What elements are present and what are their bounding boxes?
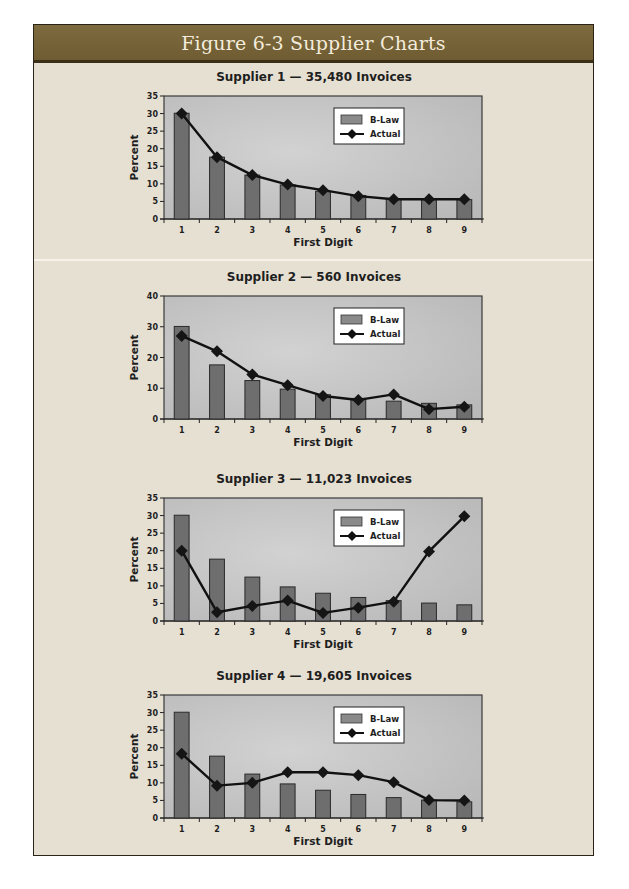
legend-bar-swatch xyxy=(341,714,362,723)
x-tick-label: 7 xyxy=(391,426,397,435)
x-tick-label: 7 xyxy=(391,628,397,637)
y-tick-label: 20 xyxy=(147,354,159,363)
bar xyxy=(245,381,260,419)
x-tick-label: 3 xyxy=(250,628,256,637)
chart-title: Supplier 1 — 35,480 Invoices xyxy=(216,70,412,84)
x-tick-label: 6 xyxy=(356,226,362,235)
x-tick-label: 8 xyxy=(426,426,432,435)
x-tick-label: 5 xyxy=(320,825,326,834)
x-tick-label: 1 xyxy=(179,426,185,435)
legend-bar-swatch xyxy=(341,517,362,526)
y-tick-label: 15 xyxy=(147,761,159,770)
y-axis-label: Percent xyxy=(128,335,140,381)
y-axis-label: Percent xyxy=(128,135,140,181)
x-tick-label: 4 xyxy=(285,825,291,834)
figure-frame: Figure 6-3 Supplier Charts Supplier 1 — … xyxy=(33,24,594,856)
x-tick-label: 3 xyxy=(250,426,256,435)
chart-title: Supplier 2 — 560 Invoices xyxy=(227,270,401,284)
y-tick-label: 0 xyxy=(152,415,158,424)
y-tick-label: 10 xyxy=(147,779,159,788)
bar xyxy=(280,784,295,818)
legend-b-law-label: B-Law xyxy=(370,517,399,527)
y-axis: 010203040 xyxy=(147,292,164,424)
x-tick-label: 2 xyxy=(214,825,220,834)
x-tick-label: 4 xyxy=(285,628,291,637)
x-axis: 123456789 xyxy=(160,219,484,235)
y-tick-label: 25 xyxy=(147,529,159,538)
x-axis-label: First Digit xyxy=(293,236,352,248)
legend: B-LawActual xyxy=(334,707,404,743)
figure-header: Figure 6-3 Supplier Charts xyxy=(34,25,593,63)
x-tick-label: 7 xyxy=(391,226,397,235)
bar xyxy=(174,113,189,219)
x-tick-label: 5 xyxy=(320,226,326,235)
x-tick-label: 6 xyxy=(356,825,362,834)
x-tick-label: 1 xyxy=(179,226,185,235)
x-tick-label: 2 xyxy=(214,628,220,637)
y-tick-label: 25 xyxy=(147,127,159,136)
legend-bar-swatch xyxy=(341,115,362,124)
bar xyxy=(210,157,225,219)
x-tick-label: 4 xyxy=(285,226,291,235)
legend-actual-label: Actual xyxy=(370,531,400,541)
chart-supplier-3: Supplier 3 — 11,023 Invoices051015202530… xyxy=(34,463,595,663)
x-tick-label: 1 xyxy=(179,825,185,834)
bar xyxy=(280,389,295,419)
y-axis-label: Percent xyxy=(128,537,140,583)
x-tick-label: 9 xyxy=(462,426,468,435)
x-axis: 123456789 xyxy=(160,419,484,435)
y-tick-label: 0 xyxy=(152,215,158,224)
x-tick-label: 1 xyxy=(179,628,185,637)
legend: B-LawActual xyxy=(334,108,404,144)
y-tick-label: 25 xyxy=(147,726,159,735)
y-tick-label: 40 xyxy=(147,292,159,301)
bar xyxy=(210,365,225,419)
x-tick-label: 2 xyxy=(214,426,220,435)
x-axis: 123456789 xyxy=(160,621,484,637)
chart-title: Supplier 4 — 19,605 Invoices xyxy=(216,669,412,683)
y-axis: 05101520253035 xyxy=(147,92,164,224)
x-tick-label: 9 xyxy=(462,226,468,235)
x-tick-label: 7 xyxy=(391,825,397,834)
legend-b-law-label: B-Law xyxy=(370,115,399,125)
bar xyxy=(351,794,366,818)
y-tick-label: 20 xyxy=(147,145,159,154)
bar xyxy=(316,790,331,818)
chart-supplier-4: Supplier 4 — 19,605 Invoices051015202530… xyxy=(34,660,595,860)
bar xyxy=(174,712,189,818)
y-tick-label: 10 xyxy=(147,582,159,591)
figure-title: Figure 6-3 Supplier Charts xyxy=(181,32,446,54)
bar xyxy=(386,798,401,818)
x-axis-label: First Digit xyxy=(293,436,352,448)
y-tick-label: 5 xyxy=(152,796,158,805)
chart-supplier-2: Supplier 2 — 560 Invoices010203040Percen… xyxy=(34,261,595,461)
y-tick-label: 30 xyxy=(147,709,159,718)
legend-b-law-label: B-Law xyxy=(370,714,399,724)
y-tick-label: 35 xyxy=(147,92,159,101)
y-tick-label: 20 xyxy=(147,744,159,753)
y-tick-label: 35 xyxy=(147,494,159,503)
x-tick-label: 9 xyxy=(462,628,468,637)
legend-actual-label: Actual xyxy=(370,728,400,738)
y-axis: 05101520253035 xyxy=(147,691,164,823)
x-axis-label: First Digit xyxy=(293,638,352,650)
x-tick-label: 8 xyxy=(426,628,432,637)
bar xyxy=(245,175,260,219)
y-tick-label: 30 xyxy=(147,110,159,119)
y-tick-label: 30 xyxy=(147,323,159,332)
x-tick-label: 3 xyxy=(250,226,256,235)
x-axis: 123456789 xyxy=(160,818,484,834)
y-tick-label: 35 xyxy=(147,691,159,700)
x-tick-label: 3 xyxy=(250,825,256,834)
bar xyxy=(422,603,437,621)
x-tick-label: 5 xyxy=(320,628,326,637)
legend-bar-swatch xyxy=(341,315,362,324)
bar xyxy=(245,577,260,621)
x-tick-label: 6 xyxy=(356,426,362,435)
y-tick-label: 0 xyxy=(152,814,158,823)
y-tick-label: 15 xyxy=(147,162,159,171)
legend-b-law-label: B-Law xyxy=(370,315,399,325)
x-tick-label: 9 xyxy=(462,825,468,834)
y-axis: 05101520253035 xyxy=(147,494,164,626)
x-tick-label: 6 xyxy=(356,628,362,637)
